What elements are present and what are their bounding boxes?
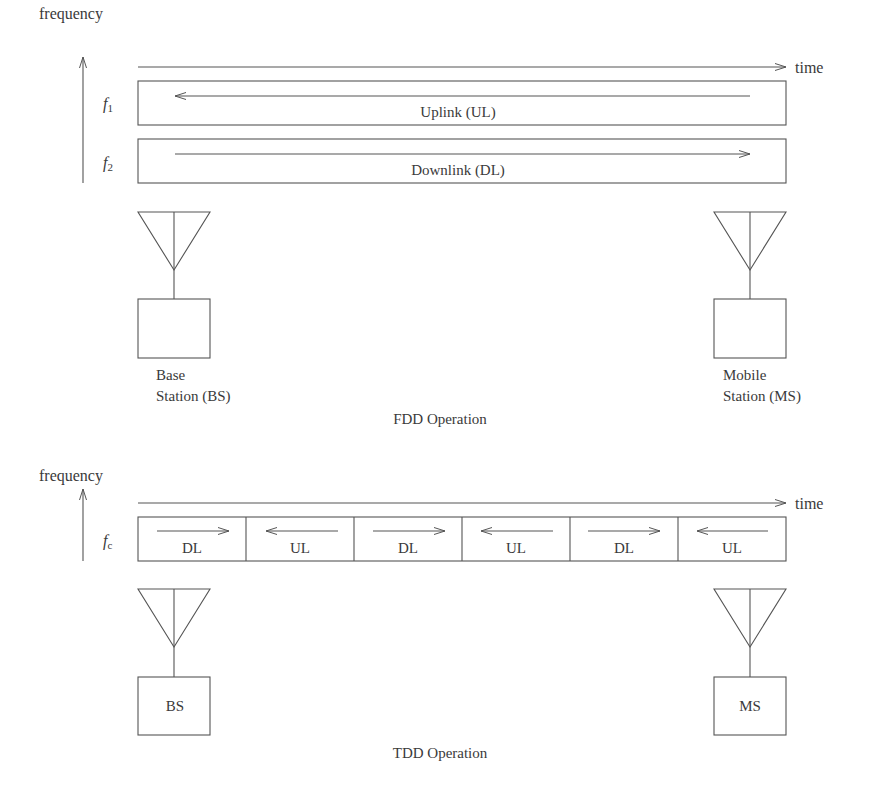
fdd-ms-antenna-icon: [714, 212, 786, 299]
tdd-ms-antenna-icon: [714, 589, 786, 677]
tdd-slot-3-label: DL: [398, 541, 418, 556]
fdd-bs-label-line1: Base: [156, 368, 185, 383]
fdd-time-label: time: [795, 60, 823, 76]
tdd-slot-2-label: UL: [290, 541, 310, 556]
fdd-f1-label: f1: [103, 96, 113, 114]
fdd-frequency-label: frequency: [39, 6, 103, 22]
fdd-f2-label: f2: [103, 155, 113, 173]
tdd-slot-1-label: DL: [182, 541, 202, 556]
fdd-bs-label-line2: Station (BS): [156, 389, 231, 404]
tdd-frequency-label: frequency: [39, 468, 103, 484]
fdd-ms-box: [714, 299, 786, 358]
tdd-ms-box-label: MS: [739, 699, 761, 714]
tdd-slot-6-label: UL: [722, 541, 742, 556]
fdd-ms-label-line2: Station (MS): [723, 389, 801, 404]
tdd-time-label: time: [795, 496, 823, 512]
fdd-downlink-label: Downlink (DL): [411, 163, 505, 178]
fdd-caption: FDD Operation: [393, 412, 487, 427]
fdd-ms-label-line1: Mobile: [723, 368, 766, 383]
fc-subscript: c: [107, 539, 112, 551]
tdd-slot-4-label: UL: [506, 541, 526, 556]
fdd-uplink-label: Uplink (UL): [420, 105, 495, 120]
tdd-fc-label: fc: [103, 533, 112, 551]
tdd-bs-antenna-icon: [138, 589, 210, 677]
tdd-bs-box-label: BS: [166, 699, 184, 714]
tdd-slot-5-label: DL: [614, 541, 634, 556]
tdd-caption: TDD Operation: [393, 746, 488, 761]
fdd-bs-box: [138, 299, 210, 358]
f1-subscript: 1: [107, 102, 113, 114]
fdd-bs-antenna-icon: [138, 212, 210, 299]
f2-subscript: 2: [107, 161, 113, 173]
